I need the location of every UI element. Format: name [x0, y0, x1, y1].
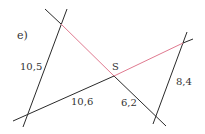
ray-2-left-segment: [13, 76, 114, 121]
segment-label-right-transversal: 8,4: [176, 77, 192, 87]
segment-label-left-transversal: 10,5: [20, 62, 42, 72]
task-label: e): [17, 30, 28, 41]
ray-1-left-extension: [45, 9, 61, 24]
segment-label-bottom-right: 6,2: [121, 98, 137, 108]
segment-label-bottom-left: 10,6: [71, 97, 93, 107]
center-point-label: S: [112, 62, 119, 72]
intercept-theorem-diagram: e) 10,5 10,6 S 6,2 8,4: [0, 0, 205, 134]
ray-1-highlighted-segment: [61, 24, 114, 76]
